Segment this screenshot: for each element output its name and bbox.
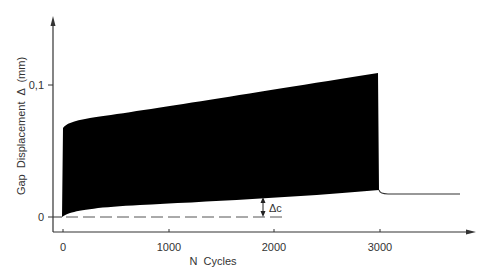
y-axis-arrow-icon bbox=[51, 16, 56, 26]
x-tick-label: 3000 bbox=[368, 241, 392, 253]
chart: 0,1 0 0 1000 2000 3000 N Cycles Gap Disp… bbox=[0, 0, 484, 276]
y-tick-label: 0,1 bbox=[29, 79, 44, 91]
displacement-band bbox=[62, 73, 379, 217]
x-tick-label: 2000 bbox=[262, 241, 286, 253]
x-tick-label: 0 bbox=[60, 241, 66, 253]
x-axis-label: N Cycles bbox=[189, 255, 237, 267]
arrow-down-icon bbox=[261, 211, 266, 217]
x-tick-label: 1000 bbox=[157, 241, 181, 253]
residual-line bbox=[379, 190, 460, 194]
y-axis-label: Gap Displacement Δ (mm) bbox=[15, 57, 27, 195]
y-tick-label: 0 bbox=[38, 211, 44, 223]
delta-c-label: Δc bbox=[269, 202, 282, 214]
x-axis-arrow-icon bbox=[466, 230, 476, 235]
